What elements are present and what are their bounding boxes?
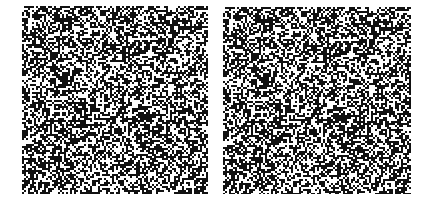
stereogram-left-panel xyxy=(22,6,208,194)
stereogram-right-panel xyxy=(223,7,411,194)
